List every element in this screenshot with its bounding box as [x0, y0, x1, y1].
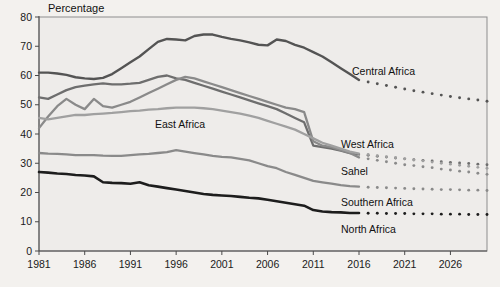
y-tick-label: 40 — [20, 128, 32, 140]
projection-dot-southern-africa — [458, 188, 461, 191]
projection-dot-east-africa — [422, 159, 425, 162]
series-label-sahel: Sahel — [341, 165, 368, 177]
projection-dot-southern-africa — [431, 188, 434, 191]
projection-dot-sahel — [367, 157, 370, 160]
projection-dot-north-africa — [476, 213, 479, 216]
projection-dot-sahel — [376, 159, 379, 162]
projection-dot-north-africa — [376, 212, 379, 215]
projection-dot-east-africa — [467, 165, 470, 168]
y-tick-label: 60 — [20, 69, 32, 81]
x-tick-label: 2026 — [439, 258, 463, 270]
projection-dot-west-africa — [476, 163, 479, 166]
x-tick-label: 2001 — [210, 258, 234, 270]
projection-dot-sahel — [467, 171, 470, 174]
projection-dot-north-africa — [458, 213, 461, 216]
projection-dot-east-africa — [458, 164, 461, 167]
y-tick-label: 50 — [20, 98, 32, 110]
series-label-east-africa: East Africa — [155, 118, 205, 130]
projection-dot-north-africa — [449, 213, 452, 216]
projection-dot-central-africa — [486, 100, 489, 103]
y-tick-label: 70 — [20, 40, 32, 52]
x-tick-label: 1986 — [73, 258, 97, 270]
projection-dot-sahel — [403, 163, 406, 166]
series-label-southern-africa: Southern Africa — [341, 196, 413, 208]
projection-dot-southern-africa — [385, 186, 388, 189]
projection-dot-east-africa — [394, 156, 397, 159]
chart-svg: 0102030405060708019811986199119962001200… — [0, 0, 500, 287]
projection-dot-central-africa — [394, 86, 397, 89]
projection-dot-sahel — [440, 168, 443, 171]
line-chart-figure: 0102030405060708019811986199119962001200… — [0, 0, 500, 287]
projection-dot-north-africa — [385, 212, 388, 215]
x-tick-label: 1996 — [164, 258, 188, 270]
projection-dot-east-africa — [385, 155, 388, 158]
projection-dot-central-africa — [403, 88, 406, 91]
projection-dot-southern-africa — [486, 189, 489, 192]
projection-dot-north-africa — [486, 213, 489, 216]
projection-dot-west-africa — [486, 163, 489, 166]
x-tick-label: 1981 — [27, 258, 51, 270]
projection-dot-sahel — [449, 169, 452, 172]
projection-dot-east-africa — [367, 153, 370, 156]
projection-dot-central-africa — [376, 82, 379, 85]
projection-dot-north-africa — [431, 212, 434, 215]
y-tick-label: 80 — [20, 11, 32, 23]
projection-dot-central-africa — [449, 95, 452, 98]
projection-dot-central-africa — [431, 92, 434, 95]
projection-dot-central-africa — [458, 96, 461, 99]
projection-dot-sahel — [476, 172, 479, 175]
projection-dot-central-africa — [476, 99, 479, 102]
projection-dot-east-africa — [476, 166, 479, 169]
plot-background — [39, 17, 487, 251]
projection-dot-sahel — [422, 165, 425, 168]
series-label-central-africa: Central Africa — [352, 65, 415, 77]
projection-dot-north-africa — [403, 212, 406, 215]
x-tick-label: 1991 — [119, 258, 143, 270]
projection-dot-central-africa — [440, 94, 443, 97]
y-tick-label: 30 — [20, 157, 32, 169]
projection-dot-southern-africa — [440, 188, 443, 191]
projection-dot-north-africa — [394, 212, 397, 215]
projection-dot-sahel — [385, 160, 388, 163]
projection-dot-north-africa — [467, 213, 470, 216]
projection-dot-central-africa — [467, 97, 470, 100]
x-tick-label: 2011 — [302, 258, 325, 270]
projection-dot-southern-africa — [367, 186, 370, 189]
projection-dot-sahel — [412, 164, 415, 167]
projection-dot-north-africa — [412, 212, 415, 215]
x-tick-label: 2006 — [256, 258, 280, 270]
projection-dot-sahel — [394, 162, 397, 165]
projection-dot-central-africa — [412, 89, 415, 92]
projection-dot-north-africa — [367, 212, 370, 215]
projection-dot-southern-africa — [467, 189, 470, 192]
projection-dot-east-africa — [440, 162, 443, 165]
projection-dot-southern-africa — [422, 188, 425, 191]
projection-dot-central-africa — [422, 91, 425, 94]
projection-dot-sahel — [486, 173, 489, 176]
y-axis-title: Percentage — [48, 2, 104, 14]
y-tick-label: 20 — [20, 186, 32, 198]
projection-dot-north-africa — [422, 212, 425, 215]
y-tick-label: 10 — [20, 215, 32, 227]
projection-dot-east-africa — [376, 154, 379, 157]
projection-dot-east-africa — [412, 159, 415, 162]
projection-dot-west-africa — [467, 162, 470, 165]
series-label-west-africa: West Africa — [341, 138, 394, 150]
projection-dot-east-africa — [486, 167, 489, 170]
projection-dot-central-africa — [385, 84, 388, 87]
projection-dot-sahel — [458, 170, 461, 173]
projection-dot-east-africa — [449, 163, 452, 166]
projection-dot-southern-africa — [403, 187, 406, 190]
projection-dot-east-africa — [431, 161, 434, 164]
x-tick-label: 2016 — [347, 258, 371, 270]
y-tick-label: 0 — [26, 245, 32, 257]
projection-dot-east-africa — [403, 157, 406, 160]
projection-dot-southern-africa — [412, 187, 415, 190]
projection-dot-southern-africa — [376, 186, 379, 189]
series-label-north-africa: North Africa — [341, 223, 396, 235]
x-tick-label: 2021 — [393, 258, 417, 270]
projection-dot-sahel — [431, 166, 434, 169]
projection-dot-southern-africa — [476, 189, 479, 192]
projection-dot-central-africa — [367, 80, 370, 83]
projection-dot-southern-africa — [449, 188, 452, 191]
